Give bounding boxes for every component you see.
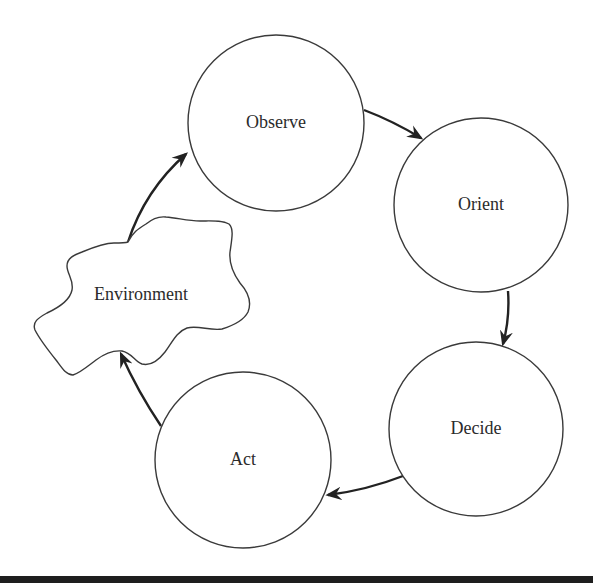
arrow-observe-to-orient [364, 110, 421, 138]
ooda-loop-diagram: Environment Observe Orient Decide Act [0, 0, 593, 586]
bottom-rule [0, 576, 593, 583]
node-observe: Observe [188, 35, 364, 211]
orient-label: Orient [458, 194, 504, 214]
node-orient: Orient [394, 118, 568, 292]
environment-label: Environment [94, 284, 188, 304]
arrow-decide-to-act [328, 476, 403, 495]
decide-label: Decide [451, 418, 502, 438]
node-act: Act [155, 372, 331, 548]
arrow-orient-to-decide [503, 291, 508, 344]
node-decide: Decide [389, 342, 563, 516]
node-environment: Environment [34, 217, 249, 375]
observe-label: Observe [246, 112, 306, 132]
arrow-act-to-environment [121, 354, 161, 426]
act-label: Act [230, 449, 256, 469]
